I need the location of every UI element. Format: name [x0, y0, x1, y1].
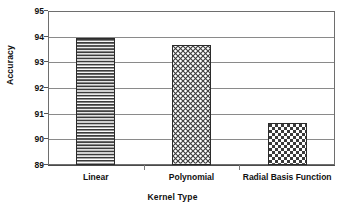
y-axis-tick-label: 90	[4, 134, 44, 144]
gridline	[49, 62, 334, 63]
bar-chart: Accuracy 89909192939495 LinearPolynomial…	[0, 0, 345, 218]
x-axis-tick-mark	[239, 165, 240, 170]
y-axis-tick-labels: 89909192939495	[0, 11, 44, 165]
plot-area	[48, 11, 335, 165]
x-axis-line	[48, 165, 335, 166]
y-axis-tick-label: 94	[4, 32, 44, 42]
y-axis-tick-label: 93	[4, 57, 44, 67]
x-axis-tick-label: Linear	[83, 172, 109, 182]
gridline	[49, 88, 334, 89]
gridline	[49, 37, 334, 38]
y-axis-tick-label: 95	[4, 6, 44, 16]
gridline	[49, 139, 334, 140]
y-axis-tick-label: 91	[4, 109, 44, 119]
x-axis-tick-label: Radial Basis Function	[243, 172, 332, 182]
x-axis-tick-label: Polynomial	[169, 172, 214, 182]
y-axis-tick-label: 89	[4, 160, 44, 170]
x-axis-tick-mark	[144, 165, 145, 170]
gridline	[49, 114, 334, 115]
x-axis-title: Kernel Type	[0, 192, 345, 202]
y-axis-tick-label: 92	[4, 83, 44, 93]
